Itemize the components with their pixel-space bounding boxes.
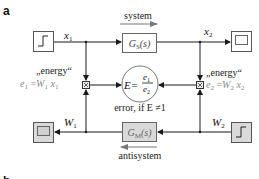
signal-w2-label: W2: [212, 116, 225, 130]
system-label: system: [124, 10, 152, 21]
multiplier-left[interactable]: [83, 82, 90, 89]
panel-label-a: a: [3, 4, 10, 18]
signal-x2-label: x2: [203, 25, 213, 39]
antisystem-label: antisystem: [119, 150, 162, 161]
right-energy-title: „energy“: [206, 67, 242, 78]
branch-point-w1: [85, 131, 87, 133]
scope-block-top[interactable]: [232, 32, 252, 52]
energy-ratio-block[interactable]: E= e1 e2: [122, 66, 158, 102]
error-condition-note: error, if E ≠1: [114, 102, 166, 113]
branch-point-w2: [199, 131, 201, 133]
right-energy-equation: e2 =W2 x2: [206, 79, 245, 92]
scope-block-bottom[interactable]: [34, 123, 54, 143]
step-source-block-bottom[interactable]: [232, 123, 252, 143]
scope-screen-icon: [236, 36, 248, 45]
panel-label-b: b: [3, 174, 10, 179]
multiplier-right[interactable]: [197, 82, 204, 89]
scope-screen-icon: [38, 127, 50, 136]
signal-w1-label: W1: [64, 116, 77, 130]
antisystem-transfer-block[interactable]: GM(s): [123, 123, 157, 142]
signal-x1-label: x1: [63, 29, 73, 43]
left-energy-equation: e1 =W1 x1: [20, 78, 59, 91]
step-source-block[interactable]: [34, 32, 54, 52]
system-transfer-block[interactable]: GS(s): [123, 34, 157, 53]
left-energy-title: „energy“: [36, 65, 72, 76]
energy-antisystem-diagram: a b system x1 GS(s) x2: [0, 0, 259, 179]
ratio-lhs: E=: [123, 79, 138, 91]
